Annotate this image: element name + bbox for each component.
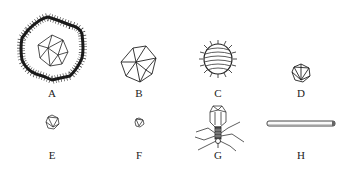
label-e: E — [49, 150, 56, 161]
rod-virus-icon — [267, 121, 335, 126]
label-h: H — [297, 150, 305, 161]
label-d: D — [297, 88, 305, 99]
label-f: F — [136, 150, 142, 161]
enveloped-icosahedron-icon — [21, 17, 83, 80]
tiny-icosahedron-icon — [46, 115, 59, 129]
label-b: B — [135, 88, 142, 99]
label-a: A — [48, 88, 56, 99]
small-icosahedron-icon — [292, 64, 310, 82]
smallest-icosahedron-icon — [135, 118, 144, 127]
virus-diagram — [0, 0, 354, 172]
icosahedron-icon — [121, 46, 156, 82]
label-c: C — [214, 88, 221, 99]
bacteriophage-icon — [195, 106, 244, 151]
spiked-helical-virus-icon — [199, 40, 237, 78]
label-g: G — [214, 150, 222, 161]
